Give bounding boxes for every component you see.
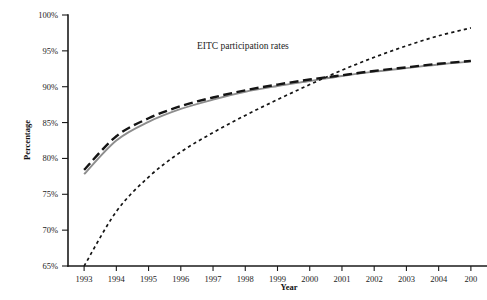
y-axis-title: Percentage [22,120,32,160]
x-tick-label: 200 [465,274,478,284]
y-tick-label: 65% [42,261,58,271]
x-tick-label: 1996 [172,274,189,284]
chart-annotation-label: EITC participation rates [197,41,289,51]
y-tick-label: 80% [42,153,58,163]
chart-figure: 65%70%75%80%85%90%95%100% 19931994199519… [0,0,487,300]
x-tick-label: 2000 [301,274,318,284]
x-tick-label: 1995 [140,274,157,284]
y-tick-label: 95% [42,46,58,56]
x-tick-label: 2001 [333,274,350,284]
y-tick-label: 100% [38,10,58,20]
x-tick-label: 1998 [237,274,254,284]
x-tick-label: 1994 [108,274,126,284]
y-tick-label: 90% [42,82,58,92]
x-tick-label: 1997 [205,274,222,284]
y-tick-label: 70% [42,225,58,235]
x-axis-title: Year [281,282,298,292]
y-tick-label: 85% [42,118,58,128]
x-tick-label: 2002 [366,274,383,284]
x-tick-label: 1993 [76,274,93,284]
x-tick-label: 2003 [398,274,415,284]
y-tick-label: 75% [42,189,58,199]
x-tick-label: 2004 [430,274,448,284]
eitc-participation-line-chart: 65%70%75%80%85%90%95%100% 19931994199519… [0,0,487,300]
